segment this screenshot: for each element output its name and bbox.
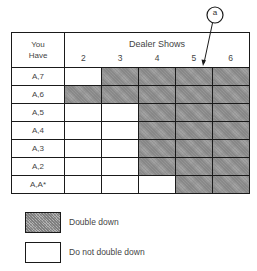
legend-blank-label: Do not double down [69,247,145,257]
table-row: A,4 [12,122,250,140]
double-down-cell [139,140,176,158]
dealer-card-labels: 2 3 4 5 6 [65,53,249,63]
double-down-cell [213,68,250,86]
hand-label: A,3 [12,140,65,158]
table-row: A,A* [12,176,250,194]
callout-label: a [207,8,223,17]
table-row: A,2 [12,158,250,176]
no-double-cell [65,140,102,158]
double-down-cell [176,122,213,140]
double-down-cell [139,158,176,176]
no-double-cell [65,104,102,122]
legend-shaded-label: Double down [69,217,119,227]
legend-blank-swatch [25,242,61,263]
double-down-cell [65,86,102,104]
hand-label: A,6 [12,86,65,104]
table-row: A,5 [12,104,250,122]
table-row: A,6 [12,86,250,104]
double-down-cell [176,86,213,104]
no-double-cell [65,122,102,140]
hand-label: A,7 [12,68,65,86]
no-double-cell [139,176,176,194]
dealer-shows-header: Dealer Shows 2 3 4 5 6 [65,33,250,68]
double-down-cell [213,140,250,158]
no-double-cell [65,68,102,86]
double-down-cell [139,104,176,122]
double-down-cell [102,86,139,104]
no-double-cell [65,158,102,176]
no-double-cell [102,104,139,122]
double-down-cell [102,68,139,86]
no-double-cell [102,122,139,140]
no-double-cell [102,176,139,194]
you-have-header: You Have [12,33,65,68]
hand-label: A,4 [12,122,65,140]
hand-label: A,5 [12,104,65,122]
no-double-cell [102,140,139,158]
double-down-cell [213,122,250,140]
double-down-cell [213,176,250,194]
double-down-cell [176,140,213,158]
double-down-cell [213,158,250,176]
double-down-cell [213,104,250,122]
legend-shaded-swatch [25,212,61,233]
double-down-cell [139,68,176,86]
double-down-cell [176,104,213,122]
no-double-cell [65,176,102,194]
double-down-cell [176,176,213,194]
double-down-cell [213,86,250,104]
hand-label: A,A* [12,176,65,194]
double-down-cell [176,68,213,86]
no-double-cell [102,158,139,176]
hand-label: A,2 [12,158,65,176]
table-row: A,7 [12,68,250,86]
double-down-cell [139,122,176,140]
double-down-table: You Have Dealer Shows 2 3 4 5 6 A,7A,6A,… [11,32,250,194]
table-row: A,3 [12,140,250,158]
double-down-cell [176,158,213,176]
header-row: You Have Dealer Shows 2 3 4 5 6 [12,33,250,68]
dealer-shows-title: Dealer Shows [65,39,249,49]
double-down-cell [139,86,176,104]
